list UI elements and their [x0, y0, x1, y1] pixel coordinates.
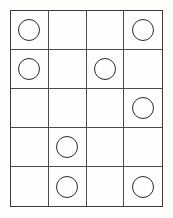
grid-figure [10, 10, 163, 207]
grid-cell [11, 167, 49, 206]
grid-cell [87, 89, 125, 128]
grid-cell [11, 50, 49, 89]
circle-icon [18, 19, 40, 41]
grid-cell [49, 89, 87, 128]
circle-icon [18, 58, 40, 80]
circle-icon [132, 176, 154, 198]
grid-cell [49, 167, 87, 206]
grid-cell [87, 128, 125, 167]
grid-cell [11, 89, 49, 128]
grid-cell [11, 128, 49, 167]
circle-icon [56, 136, 78, 158]
grid-cell [49, 128, 87, 167]
grid-cell [87, 50, 125, 89]
grid-cell [124, 89, 162, 128]
circle-icon [56, 176, 78, 198]
circle-icon [132, 97, 154, 119]
grid-cell [124, 50, 162, 89]
grid-cell [11, 11, 49, 50]
grid-cell [124, 128, 162, 167]
grid-cell [49, 50, 87, 89]
circle-icon [94, 58, 116, 80]
grid-cell [87, 167, 125, 206]
grid-cell [49, 11, 87, 50]
grid-cell [124, 167, 162, 206]
grid-cell [124, 11, 162, 50]
grid-cell [87, 11, 125, 50]
circle-icon [132, 19, 154, 41]
